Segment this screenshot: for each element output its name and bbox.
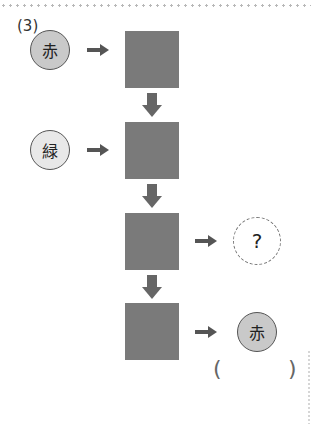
input-circle-red: 赤: [30, 30, 70, 70]
dotted-separator: [0, 4, 311, 7]
output-label: 赤: [249, 320, 265, 344]
input-circle-green: 緑: [30, 130, 70, 170]
input-label: 緑: [42, 138, 58, 162]
arrow-down-icon: [142, 275, 162, 299]
arrow-right-icon: [195, 235, 217, 247]
process-box-2: [125, 122, 179, 179]
answer-paren-close: ): [288, 356, 297, 381]
question-mark: ?: [252, 229, 263, 253]
arrow-right-icon: [87, 144, 109, 156]
arrow-right-icon: [195, 326, 217, 338]
unknown-output-circle: ?: [233, 217, 281, 265]
output-circle-red: 赤: [237, 312, 277, 352]
arrow-down-icon: [142, 184, 162, 208]
process-box-4: [125, 303, 179, 360]
process-box-1: [125, 31, 179, 88]
answer-paren-open: (: [213, 356, 222, 381]
dotted-side-rule: [308, 350, 310, 424]
arrow-right-icon: [87, 44, 109, 56]
input-label: 赤: [42, 38, 58, 62]
arrow-down-icon: [142, 93, 162, 117]
process-box-3: [125, 213, 179, 270]
problem-number: (3): [17, 17, 38, 35]
